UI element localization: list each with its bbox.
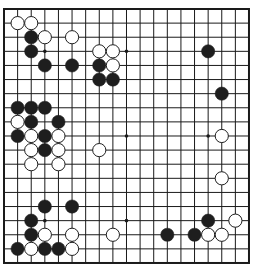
black-stone-icon[interactable] — [25, 115, 38, 128]
white-stone-icon[interactable] — [11, 115, 24, 128]
go-board-grid[interactable] — [0, 0, 254, 273]
black-stone-icon[interactable] — [11, 101, 24, 114]
white-stone-icon[interactable] — [52, 129, 65, 142]
black-stone-icon[interactable] — [38, 242, 51, 255]
white-stone-icon[interactable] — [202, 228, 215, 241]
black-stone-icon[interactable] — [25, 45, 38, 58]
black-stone-icon[interactable] — [38, 129, 51, 142]
white-stone-icon[interactable] — [25, 17, 38, 30]
white-stone-icon[interactable] — [25, 144, 38, 157]
white-stone-icon[interactable] — [93, 45, 106, 58]
white-stone-icon[interactable] — [106, 59, 119, 72]
white-stone-icon[interactable] — [25, 129, 38, 142]
black-stone-icon[interactable] — [38, 59, 51, 72]
white-stone-icon[interactable] — [52, 158, 65, 171]
star-point-icon — [206, 134, 210, 138]
black-stone-icon[interactable] — [202, 45, 215, 58]
white-stone-icon[interactable] — [93, 144, 106, 157]
black-stone-icon[interactable] — [52, 115, 65, 128]
black-stone-icon[interactable] — [38, 101, 51, 114]
black-stone-icon[interactable] — [11, 242, 24, 255]
white-stone-icon[interactable] — [38, 31, 51, 44]
black-stone-icon[interactable] — [25, 228, 38, 241]
black-stone-icon[interactable] — [202, 214, 215, 227]
black-stone-icon[interactable] — [106, 73, 119, 86]
black-stone-icon[interactable] — [93, 59, 106, 72]
black-stone-icon[interactable] — [188, 228, 201, 241]
black-stone-icon[interactable] — [93, 73, 106, 86]
star-point-icon — [125, 50, 129, 54]
star-point-icon — [43, 50, 47, 54]
white-stone-icon[interactable] — [25, 158, 38, 171]
black-stone-icon[interactable] — [161, 228, 174, 241]
white-stone-icon[interactable] — [106, 228, 119, 241]
black-stone-icon[interactable] — [65, 59, 78, 72]
white-stone-icon[interactable] — [215, 172, 228, 185]
white-stone-icon[interactable] — [65, 228, 78, 241]
white-stone-icon[interactable] — [38, 228, 51, 241]
black-stone-icon[interactable] — [65, 200, 78, 213]
star-point-icon — [125, 219, 129, 223]
white-stone-icon[interactable] — [215, 228, 228, 241]
white-stone-icon[interactable] — [106, 45, 119, 58]
white-stone-icon[interactable] — [215, 129, 228, 142]
black-stone-icon[interactable] — [38, 200, 51, 213]
white-stone-icon[interactable] — [11, 17, 24, 30]
black-stone-icon[interactable] — [52, 242, 65, 255]
white-stone-icon[interactable] — [65, 242, 78, 255]
white-stone-icon[interactable] — [25, 242, 38, 255]
white-stone-icon[interactable] — [52, 144, 65, 157]
black-stone-icon[interactable] — [215, 87, 228, 100]
black-stone-icon[interactable] — [25, 31, 38, 44]
black-stone-icon[interactable] — [25, 214, 38, 227]
star-point-icon — [43, 219, 47, 223]
black-stone-icon[interactable] — [11, 129, 24, 142]
black-stone-icon[interactable] — [38, 144, 51, 157]
go-board[interactable] — [0, 0, 254, 273]
star-point-icon — [125, 134, 129, 138]
white-stone-icon[interactable] — [229, 214, 242, 227]
white-stone-icon[interactable] — [65, 31, 78, 44]
black-stone-icon[interactable] — [25, 101, 38, 114]
